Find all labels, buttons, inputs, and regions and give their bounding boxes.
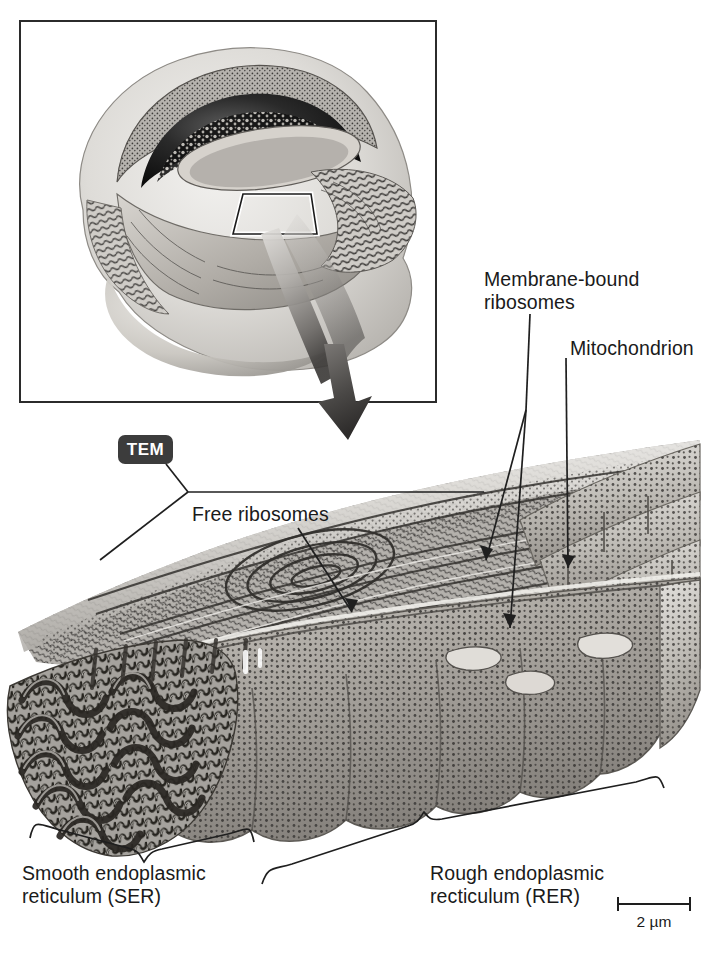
scale-bar-cap-right	[689, 897, 691, 911]
membrane-bound-leader-stem	[526, 314, 530, 410]
scale-bar: 2 µm	[612, 896, 696, 936]
er-micrograph	[0, 400, 724, 900]
label-smooth-er: Smooth endoplasmic reticulum (SER)	[22, 862, 206, 908]
rer-right-edge-ribosomes	[660, 580, 700, 748]
label-free-ribosomes: Free ribosomes	[192, 503, 329, 526]
label-rough-er: Rough endoplasmic recticulum (RER)	[430, 862, 604, 908]
scale-bar-line	[617, 903, 691, 905]
label-mitochondrion: Mitochondrion	[570, 337, 694, 360]
er-micrograph-drawing	[0, 400, 724, 900]
label-membrane-bound-ribosomes: Membrane-bound ribosomes	[484, 268, 639, 314]
scale-bar-label: 2 µm	[612, 913, 696, 931]
er-figure: TEM	[0, 0, 724, 958]
